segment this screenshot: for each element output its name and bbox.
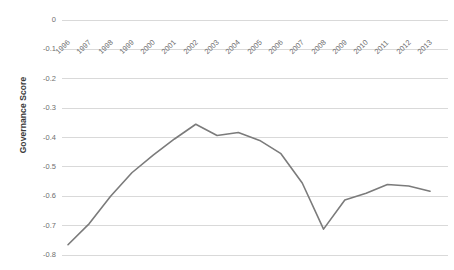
y-axis-tick-label: -0.6 — [30, 191, 56, 200]
y-axis-tick-label: -0.3 — [30, 103, 56, 112]
gridlines-group — [62, 20, 448, 255]
governance-score-line-chart: Governance Score 0-0.1-0.2-0.3-0.4-0.5-0… — [0, 0, 454, 270]
y-axis-tick-label: -0.1 — [30, 44, 56, 53]
series-line-governance-score — [68, 124, 430, 244]
y-axis-tick-label: -0.2 — [30, 74, 56, 83]
y-axis-tick-label: -0.4 — [30, 133, 56, 142]
y-axis-tick-label: -0.7 — [30, 221, 56, 230]
y-axis-tick-label: -0.5 — [30, 162, 56, 171]
y-axis-tick-label: 0 — [30, 15, 56, 24]
y-axis-tick-label: -0.8 — [30, 250, 56, 259]
